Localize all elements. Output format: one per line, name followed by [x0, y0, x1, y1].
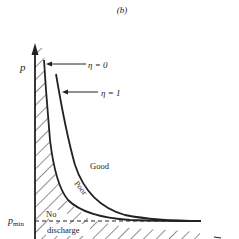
region-no-label: No [46, 209, 56, 219]
curve-eta-0 [44, 60, 201, 221]
eta-0-label: η = 0 [88, 60, 108, 70]
y-axis-label: p [19, 61, 26, 73]
x-axis-arrow-icon [214, 237, 221, 238]
p-min-label: pmin [7, 215, 24, 228]
panel-label: (b) [117, 5, 128, 15]
curve-eta-1 [56, 74, 201, 221]
eta-1-arrow-icon [62, 90, 68, 95]
discharge-regime-diagram: (b) p pmin η = 0 η = 1 Good Poor No disc… [0, 0, 239, 239]
region-discharge-label: discharge [47, 225, 80, 235]
eta-0-arrow-icon [46, 62, 52, 67]
no-discharge-hatched-region [35, 45, 205, 239]
eta-1-label: η = 1 [101, 88, 121, 98]
region-good-label: Good [90, 161, 110, 171]
region-poor-label: Poor [73, 179, 90, 197]
